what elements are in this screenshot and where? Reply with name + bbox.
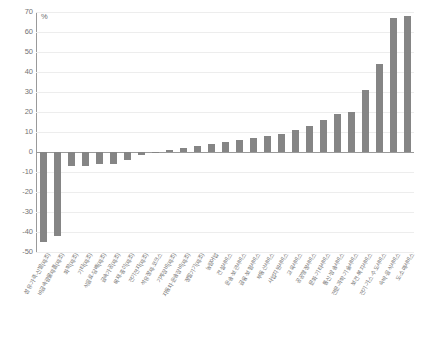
y-tick-label: -40 [22,228,33,236]
bar [250,138,257,152]
y-tick-label: 0 [29,148,33,156]
bar [152,152,159,153]
bar [68,152,75,166]
x-tick-label: 비금속광물제품(제조) [36,252,65,296]
bar [320,120,327,152]
bar [82,152,89,166]
bar [404,16,411,152]
bar [334,114,341,152]
bar [278,134,285,152]
bar [306,126,313,152]
plot-area [36,12,414,252]
bar [264,136,271,152]
bar [180,148,187,152]
y-tick-label: -10 [22,168,33,176]
bar [40,152,47,242]
y-tick-label: -30 [22,208,33,216]
bar [390,18,397,152]
bar [124,152,131,160]
y-tick-label: 40 [25,68,33,76]
bar [208,144,215,152]
y-tick-label: 60 [25,28,33,36]
y-tick-label: -50 [22,248,33,256]
bar [166,150,173,152]
bar [110,152,117,164]
bar [376,64,383,152]
chart-title-strip [0,0,426,7]
bar [236,140,243,152]
y-tick-label: 70 [25,8,33,16]
y-axis-tick-labels: 706050403020100-10-20-30-40-50 [0,12,33,252]
bar [194,146,201,152]
y-tick-label: -20 [22,188,33,196]
y-tick-label: 20 [25,108,33,116]
y-tick-label: 30 [25,88,33,96]
bar [54,152,61,236]
y-tick-label: 50 [25,48,33,56]
bars-layer [36,12,414,252]
bar [292,130,299,152]
bar [222,142,229,152]
y-tick-label: 10 [25,128,33,136]
bar [96,152,103,164]
bar [138,152,145,155]
bar-chart: % 706050403020100-10-20-30-40-50 섬유·가죽·신… [0,0,426,338]
bar [362,90,369,152]
x-axis-tick-labels: 섬유·가죽·신발(제조)비금속광물제품(제조)화학(제조)기타(제조)식음료·담… [36,252,414,338]
bar [348,112,355,152]
